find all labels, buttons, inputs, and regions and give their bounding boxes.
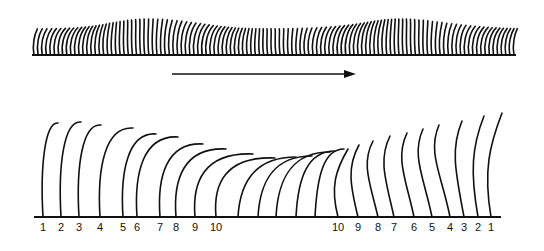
cilium-position bbox=[42, 123, 58, 217]
cilium-stroke bbox=[148, 19, 149, 55]
stroke-position-label: 2 bbox=[475, 221, 481, 233]
stroke-position-label: 6 bbox=[134, 221, 140, 233]
cilium-stroke bbox=[242, 28, 245, 55]
cilium-position bbox=[136, 137, 178, 217]
stroke-position-label: 8 bbox=[173, 221, 179, 233]
cilium-stroke bbox=[390, 19, 392, 55]
cilium-stroke bbox=[165, 20, 168, 55]
cilium-stroke bbox=[152, 19, 153, 55]
cilium-stroke bbox=[444, 23, 447, 55]
cilium-stroke bbox=[247, 29, 249, 55]
cilium-stroke bbox=[378, 20, 382, 55]
stroke-position-label: 5 bbox=[429, 221, 435, 233]
cilium-stroke bbox=[107, 23, 110, 55]
cilium-stroke bbox=[513, 29, 517, 55]
cilium-stroke bbox=[251, 29, 253, 55]
cilium-position bbox=[258, 156, 312, 217]
cilium-stroke bbox=[255, 29, 256, 55]
cilium-stroke bbox=[402, 19, 403, 55]
cilium-stroke-sequence: 1234567891010987654321 bbox=[34, 113, 502, 233]
cilium-stroke bbox=[103, 24, 106, 55]
stroke-position-label: 2 bbox=[58, 221, 64, 233]
cilium-stroke bbox=[296, 29, 298, 56]
cilium-stroke bbox=[111, 23, 113, 55]
cilium-stroke bbox=[394, 19, 395, 55]
cilium-stroke bbox=[271, 29, 272, 55]
cilium-stroke bbox=[287, 29, 288, 55]
cilium-stroke bbox=[283, 29, 284, 55]
stroke-position-label: 3 bbox=[76, 221, 82, 233]
cilium-position bbox=[315, 149, 344, 217]
cilium-stroke bbox=[423, 20, 424, 55]
cilium-position bbox=[435, 125, 450, 217]
cilia-wave-strip bbox=[32, 19, 517, 55]
cilium-position bbox=[334, 149, 348, 217]
cilium-stroke bbox=[292, 29, 293, 55]
stroke-position-label: 10 bbox=[210, 221, 222, 233]
cilium-position bbox=[455, 121, 464, 217]
cilium-stroke bbox=[439, 23, 442, 55]
cilium-position bbox=[418, 129, 432, 217]
cilium-stroke bbox=[115, 22, 116, 55]
stroke-position-label: 5 bbox=[120, 221, 126, 233]
cilium-stroke bbox=[427, 21, 428, 55]
cilium-stroke bbox=[398, 19, 399, 55]
cilium-stroke bbox=[386, 20, 388, 56]
stroke-position-label: 10 bbox=[332, 221, 344, 233]
cilium-position bbox=[99, 128, 133, 217]
cilium-stroke bbox=[431, 22, 432, 56]
stroke-position-label: 8 bbox=[375, 221, 381, 233]
wave-direction-arrow-icon bbox=[172, 70, 356, 78]
stroke-position-label: 1 bbox=[488, 221, 494, 233]
cilium-stroke bbox=[300, 28, 302, 55]
stroke-position-label: 3 bbox=[461, 221, 467, 233]
cilium-stroke bbox=[382, 20, 385, 55]
stroke-position-label: 4 bbox=[447, 221, 453, 233]
cilium-stroke bbox=[119, 22, 120, 55]
cilium-position bbox=[402, 133, 414, 217]
stroke-position-label: 1 bbox=[40, 221, 46, 233]
stroke-position-label: 4 bbox=[97, 221, 103, 233]
cilium-stroke bbox=[497, 28, 504, 55]
cilia-metachronal-wave-diagram: 1234567891010987654321 bbox=[0, 0, 544, 251]
cilium-position bbox=[238, 157, 296, 217]
cilium-stroke bbox=[308, 28, 312, 55]
cilium-stroke bbox=[415, 20, 416, 55]
cilium-stroke bbox=[435, 22, 437, 55]
cilium-stroke bbox=[156, 19, 158, 55]
cilium-stroke bbox=[267, 29, 268, 55]
cilium-stroke bbox=[169, 20, 173, 55]
cilium-stroke bbox=[279, 29, 280, 55]
cilium-stroke bbox=[448, 24, 452, 55]
cilium-stroke bbox=[127, 20, 128, 55]
cilium-position bbox=[78, 125, 101, 217]
cilium-stroke bbox=[123, 21, 124, 55]
cilium-stroke bbox=[304, 28, 307, 55]
cilium-stroke bbox=[189, 23, 196, 55]
stroke-position-label: 9 bbox=[355, 221, 361, 233]
cilium-stroke bbox=[132, 20, 133, 55]
cilium-position bbox=[367, 141, 378, 217]
cilium-position bbox=[216, 158, 275, 217]
cilium-position bbox=[488, 113, 502, 217]
cilium-stroke bbox=[140, 19, 141, 55]
cilium-stroke bbox=[259, 29, 260, 55]
cilium-stroke bbox=[50, 29, 57, 55]
stroke-position-label: 9 bbox=[192, 221, 198, 233]
cilium-stroke bbox=[136, 20, 137, 55]
cilium-position bbox=[384, 136, 394, 217]
arrow-head-icon bbox=[344, 70, 356, 78]
stroke-position-label: 7 bbox=[391, 221, 397, 233]
stroke-position-label: 7 bbox=[157, 221, 163, 233]
cilium-stroke bbox=[238, 28, 242, 55]
cilium-position bbox=[351, 145, 359, 217]
cilium-position bbox=[473, 116, 484, 217]
stroke-position-label: 6 bbox=[411, 221, 417, 233]
cilium-stroke bbox=[160, 19, 162, 55]
cilium-stroke bbox=[406, 19, 407, 55]
cilium-stroke bbox=[410, 19, 411, 55]
cilium-stroke bbox=[144, 19, 145, 55]
cilium-stroke bbox=[263, 29, 264, 55]
cilium-stroke bbox=[419, 20, 420, 55]
cilium-stroke bbox=[275, 29, 276, 55]
